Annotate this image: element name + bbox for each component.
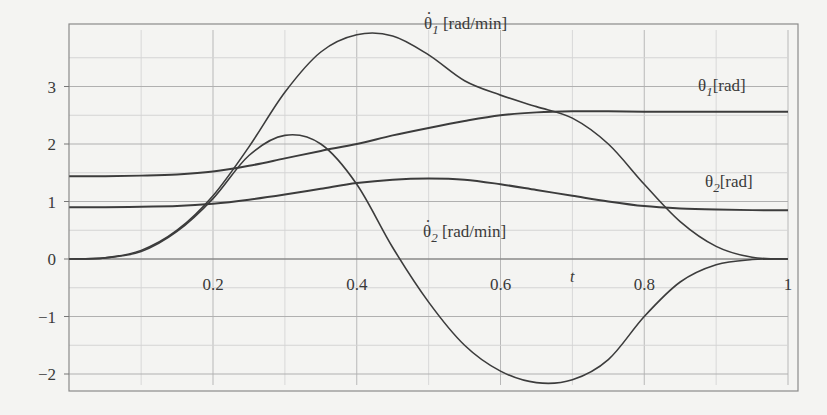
y-tick-label: 1	[48, 193, 57, 212]
label-theta2: θ2[rad]	[705, 172, 753, 192]
y-tick-label: −2	[38, 365, 56, 384]
chart: −2−101230.20.40.60.81	[0, 0, 827, 415]
y-tick-label: 0	[48, 250, 57, 269]
label-theta2-dot: θ2 [rad/min]	[423, 222, 506, 242]
label-theta1: θ1[rad]	[698, 76, 746, 96]
y-tick-label: 3	[48, 78, 57, 97]
x-axis-label: t	[570, 268, 574, 286]
y-tick-label: −1	[38, 308, 56, 327]
x-tick-label: 1	[784, 275, 793, 294]
x-tick-label: 0.8	[634, 275, 655, 294]
x-tick-label: 0.6	[490, 275, 511, 294]
x-tick-label: 0.4	[346, 275, 368, 294]
label-theta1-dot: θ1 [rad/min]	[424, 14, 507, 34]
y-tick-label: 2	[48, 135, 57, 154]
plot-frame	[69, 24, 798, 391]
x-tick-label: 0.2	[202, 275, 223, 294]
